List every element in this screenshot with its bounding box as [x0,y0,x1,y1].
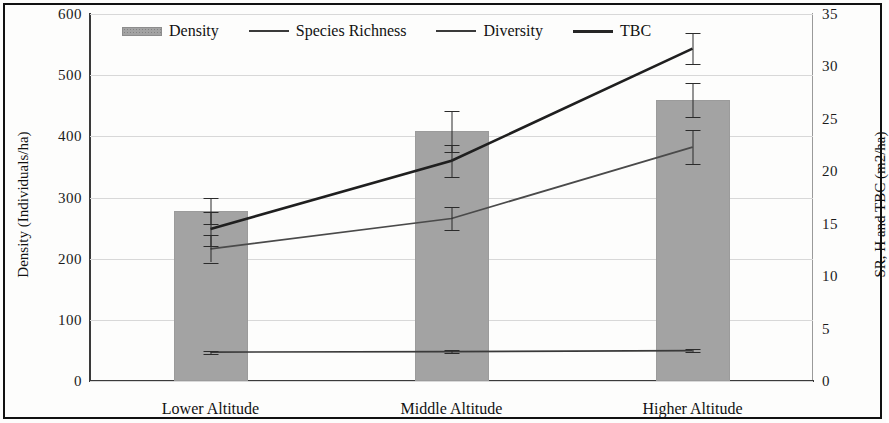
chart-legend: DensitySpecies RichnessDiversityTBC [122,22,651,40]
errorbar-species-richness-cap [685,164,700,165]
errorbar-density-cap [203,198,218,199]
errorbar-tbc-cap [444,177,459,178]
errorbar-tbc-cap [444,145,459,146]
plot-area: Lower AltitudeMiddle AltitudeHigher Alti… [90,14,813,381]
right-axis-ticks: 05101520253035 [822,14,862,381]
right-tick-label: 20 [822,163,838,180]
errorbar-density-cap [685,117,700,118]
right-tick-label: 30 [822,58,838,75]
line-swatch-icon [436,30,476,32]
left-tick-label: 400 [58,128,82,145]
legend-item-density[interactable]: Density [122,22,219,40]
legend-label: Species Richness [296,22,407,40]
errorbar-tbc [451,145,452,176]
left-axis-ticks: 0100200300400500600 [0,14,82,381]
errorbar-density [692,83,693,117]
legend-item-diversity[interactable]: Diversity [436,22,543,40]
errorbar-species-richness-cap [444,230,459,231]
gridline [90,381,813,382]
line-swatch-icon [573,30,613,33]
errorbar-species-richness-cap [685,130,700,131]
errorbar-species-richness [451,207,452,230]
errorbar-tbc-cap [203,246,218,247]
right-tick-label: 35 [822,6,838,23]
errorbar-tbc-cap [203,212,218,213]
errorbar-density-cap [444,111,459,112]
errorbar-species-richness-cap [203,263,218,264]
legend-label: TBC [620,22,651,40]
errorbar-species-richness-cap [444,207,459,208]
left-tick-label: 300 [58,189,82,206]
line-swatch-icon [249,30,289,32]
errorbar-diversity-cap [444,350,459,351]
right-axis-title: SR, H and TBC (m2/ha) [872,85,889,325]
category-label-lower-altitude: Lower Altitude [162,400,259,418]
category-label-middle-altitude: Middle Altitude [401,400,503,418]
errorbar-species-richness [692,130,693,164]
errorbar-diversity-cap [685,349,700,350]
right-tick-label: 25 [822,110,838,127]
errorbar-diversity-cap [203,354,218,355]
errorbar-tbc-cap [685,64,700,65]
errorbar-diversity-cap [203,351,218,352]
legend-label: Density [169,22,219,40]
legend-label: Diversity [483,22,543,40]
errorbar-tbc [210,212,211,246]
right-tick-label: 15 [822,215,838,232]
errorbar-diversity-cap [685,352,700,353]
right-tick-label: 0 [822,373,830,390]
errorbar-diversity-cap [444,353,459,354]
legend-item-tbc[interactable]: TBC [573,22,651,40]
left-tick-label: 600 [58,6,82,23]
bar-swatch-icon [122,27,162,36]
errorbar-tbc [692,33,693,64]
right-tick-label: 5 [822,320,830,337]
left-tick-label: 500 [58,67,82,84]
errorbar-tbc-cap [685,33,700,34]
left-tick-label: 200 [58,250,82,267]
errorbar-density-cap [685,83,700,84]
line-series-group [90,14,813,381]
left-tick-label: 100 [58,311,82,328]
right-tick-label: 10 [822,268,838,285]
category-label-higher-altitude: Higher Altitude [643,400,743,418]
left-tick-label: 0 [74,373,82,390]
legend-item-species-richness[interactable]: Species Richness [249,22,407,40]
